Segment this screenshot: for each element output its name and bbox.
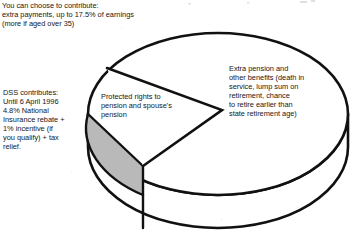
annotation-dss-contribution: DSS contributes: Until 6 April 1996 4.8%… <box>3 88 83 151</box>
annotation-employee-contribution: You can choose to contribute: extra paym… <box>2 1 178 28</box>
annotation-protected-rights: Protected rights to pension and spouse's… <box>101 92 189 119</box>
diagram-canvas: You can choose to contribute: extra paym… <box>0 0 357 236</box>
scan-artifacts <box>188 0 315 5</box>
annotation-extra-pension-benefits: Extra pension and other benefits (death … <box>229 64 333 118</box>
